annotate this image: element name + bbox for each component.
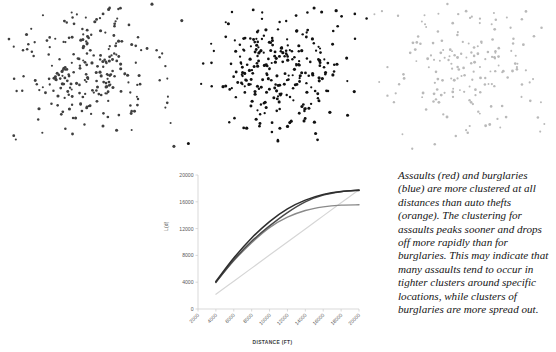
ripley-l-chart-canvas: 0400080001200016000200002000400060008000… (160, 167, 365, 352)
svg-text:8000: 8000 (182, 252, 193, 258)
figure-root: 0400080001200016000200002000400060008000… (0, 0, 556, 352)
svg-text:12000: 12000 (179, 226, 193, 232)
svg-text:20000: 20000 (179, 172, 193, 178)
figure-caption: Assaults (red) and burglaries (blue) are… (398, 169, 550, 316)
svg-text:16000: 16000 (179, 199, 193, 205)
svg-text:8000: 8000 (242, 312, 254, 324)
svg-text:6000: 6000 (224, 312, 236, 324)
assaults-point-map (0, 0, 185, 155)
svg-text:12000: 12000 (275, 312, 289, 326)
svg-text:20000: 20000 (347, 312, 361, 326)
svg-text:0: 0 (191, 306, 194, 312)
auto-thefts-point-map-canvas (371, 0, 556, 155)
svg-text:10000: 10000 (258, 312, 272, 326)
svg-text:16000: 16000 (311, 312, 325, 326)
auto-thefts-point-map (371, 0, 556, 155)
svg-text:2000: 2000 (188, 312, 200, 324)
burglaries-point-map (185, 0, 370, 155)
chart-y-axis-label: L(d) (163, 221, 169, 231)
svg-text:4000: 4000 (182, 279, 193, 285)
svg-text:18000: 18000 (329, 312, 343, 326)
svg-text:14000: 14000 (293, 312, 307, 326)
svg-text:DISTANCE (FT): DISTANCE (FT) (253, 340, 293, 345)
assaults-point-map-canvas (0, 0, 185, 155)
svg-text:4000: 4000 (206, 312, 218, 324)
burglaries-point-map-canvas (185, 0, 370, 155)
ripley-l-chart: 0400080001200016000200002000400060008000… (160, 167, 365, 352)
lower-row: 0400080001200016000200002000400060008000… (0, 155, 556, 352)
point-map-row (0, 0, 556, 155)
